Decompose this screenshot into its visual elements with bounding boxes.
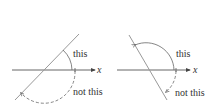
left-panel: x this not this bbox=[12, 34, 103, 103]
not-this-label: not this bbox=[73, 86, 103, 97]
dashed-angle-arc bbox=[21, 71, 75, 103]
solid-angle-arc bbox=[135, 43, 174, 70]
angle-diagram: x this not this x this not this bbox=[0, 0, 214, 106]
right-panel: x this not this bbox=[117, 35, 205, 100]
solid-angle-arc bbox=[63, 50, 72, 70]
x-axis-label: x bbox=[96, 64, 102, 75]
inclined-line bbox=[129, 35, 167, 100]
this-label: this bbox=[176, 48, 191, 59]
this-label: this bbox=[73, 48, 88, 59]
x-axis-label: x bbox=[192, 64, 198, 75]
not-this-label: not this bbox=[175, 87, 205, 98]
